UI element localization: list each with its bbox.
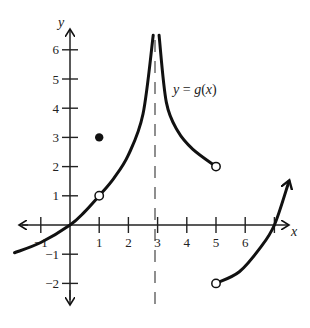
x-tick-label: 4 (184, 235, 191, 250)
y-tick-label: 2 (53, 159, 60, 174)
x-tick-label: 6 (242, 235, 249, 250)
curve-falling-from-asymptote (159, 35, 216, 166)
x-tick-label: 5 (213, 235, 220, 250)
y-axis-label: y (56, 15, 65, 30)
y-tick-label: 4 (53, 101, 60, 116)
x-tick-label: 1 (96, 235, 103, 250)
open-point (95, 192, 103, 200)
x-axis-label: x (290, 224, 298, 239)
function-label: y = g(x) (171, 82, 217, 98)
graph-canvas: −1123456−2−1123456 x y y = g(x) (0, 0, 310, 328)
y-tick-label: −2 (45, 276, 59, 291)
open-point (212, 279, 220, 287)
curve-rising-to-asymptote (99, 35, 153, 196)
x-tick-label: 2 (125, 235, 132, 250)
y-tick-label: 3 (53, 130, 60, 145)
open-point (212, 162, 220, 170)
y-tick-label: 6 (53, 42, 60, 57)
curve-right-branch (216, 181, 289, 283)
y-tick-label: 5 (53, 72, 60, 87)
y-tick-label: −1 (45, 247, 59, 262)
closed-point (95, 133, 103, 141)
y-tick-label: 1 (53, 188, 60, 203)
